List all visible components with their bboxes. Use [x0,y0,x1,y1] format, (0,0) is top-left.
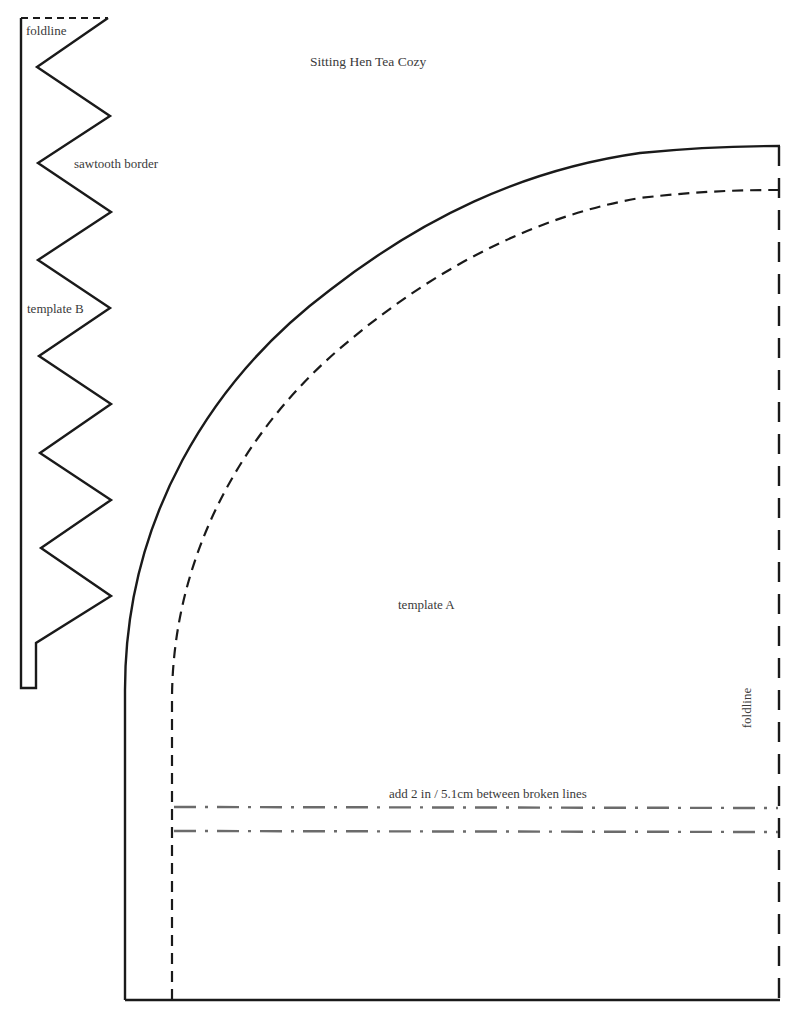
sawtooth-border-label: sawtooth border [74,156,158,172]
template-a-label: template A [398,597,455,613]
template-b-foldline-label: foldline [26,23,66,39]
template-a-foldline-label: foldline [739,688,755,728]
template-a-seam-line [172,190,778,1000]
template-b-label: template B [27,301,84,317]
pattern-sheet [0,0,793,1013]
template-a-outer-cutline [125,146,780,1000]
extension-note: add 2 in / 5.1cm between broken lines [389,786,587,802]
template-a-shape [125,146,780,1000]
extension-line-upper [174,807,778,808]
template-b-sawtooth-outline [21,18,111,688]
extension-line-lower [174,831,778,832]
template-b-shape [21,18,111,688]
page-title: Sitting Hen Tea Cozy [310,54,426,70]
